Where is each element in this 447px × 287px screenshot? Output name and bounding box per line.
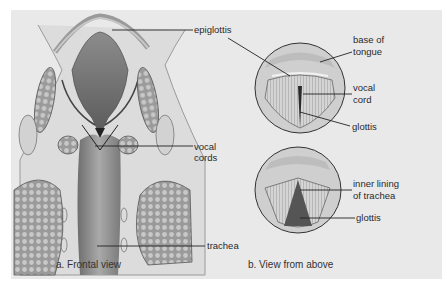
label-trachea: trachea [207, 240, 239, 251]
caption-view-from-above: b. View from above [248, 259, 333, 270]
label-glottis-bottom: glottis [356, 212, 381, 223]
label-glottis-top: glottis [352, 121, 377, 132]
label-vocal-cord-line2: cord [353, 94, 371, 105]
label-base-of-tongue-line1: base of [353, 34, 384, 45]
label-vocal-cords-line2: cords [194, 152, 217, 163]
label-vocal-cords-line1: vocal [194, 141, 216, 152]
label-inner-lining-line2: of trachea [353, 190, 395, 201]
caption-frontal-view: a. Frontal view [56, 259, 121, 270]
label-vocal-cord-line1: vocal [353, 82, 375, 93]
label-base-of-tongue-line2: tongue [353, 46, 382, 57]
top-view-upper-drawing [255, 43, 345, 133]
frontal-view-drawing [14, 16, 205, 275]
label-epiglottis: epiglottis [194, 24, 232, 35]
label-inner-lining-line1: inner lining [353, 178, 399, 189]
